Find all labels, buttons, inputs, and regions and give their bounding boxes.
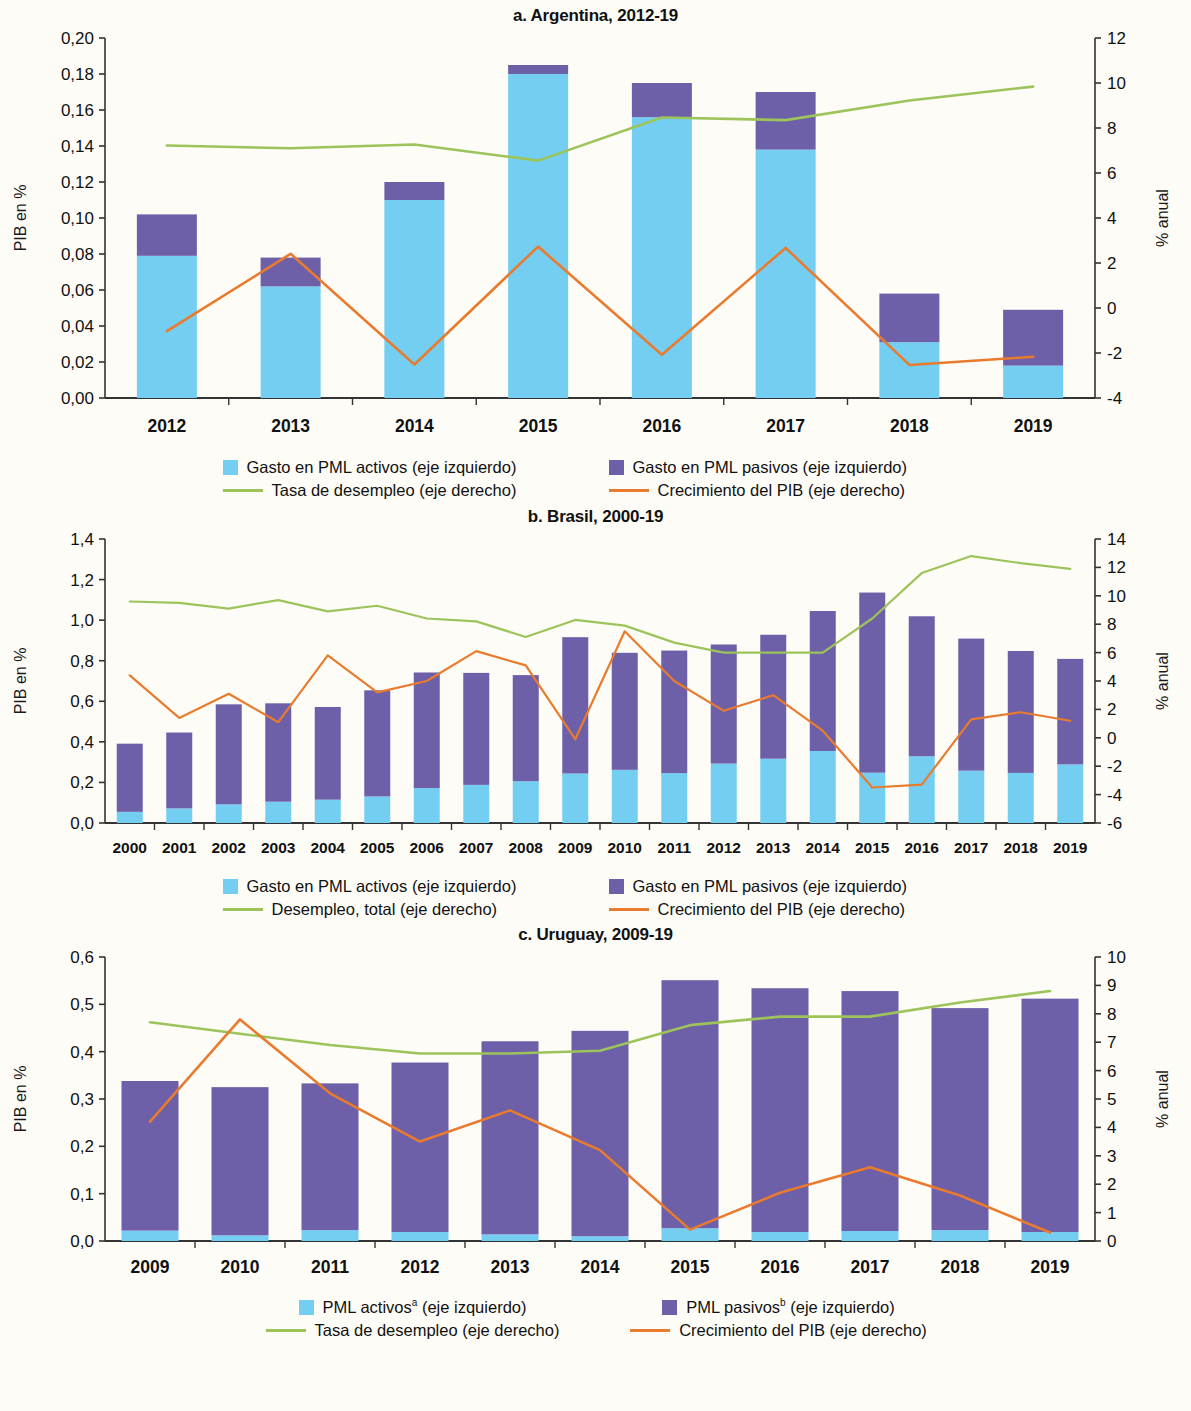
chart-svg-brasil: 0,00,20,40,60,81,01,21,4-6-4-20246810121…: [0, 527, 1191, 875]
legend-row-2: Tasa de desempleo (eje derecho) Crecimie…: [0, 479, 1191, 502]
bar-segment-pml-pasivos: [212, 1087, 269, 1235]
bar-segment-pml-activos: [661, 773, 687, 823]
bar-segment-pml-activos: [414, 788, 440, 823]
line-swatch-desempleo-icon: [266, 1329, 306, 1332]
y-axis-label-right: % anual: [1154, 189, 1171, 247]
line-swatch-crecimiento-icon: [609, 908, 649, 911]
bar-segment-pml-pasivos: [216, 704, 242, 804]
legend-item-pml-activos[interactable]: Gasto en PML activos (eje izquierdo): [223, 459, 583, 476]
bar-segment-pml-pasivos: [842, 991, 899, 1231]
bar-segment-pml-activos: [302, 1230, 359, 1241]
legend-item-pml-activos[interactable]: PML activosa (eje izquierdo): [243, 1298, 583, 1316]
y-axis-tick-right: 12: [1107, 558, 1126, 577]
y-axis-tick-left: 0,2: [70, 1138, 94, 1157]
line-series-desempleo: [167, 87, 1033, 161]
y-axis-label-left: PIB en %: [12, 1066, 29, 1133]
x-axis-tick-label: 2017: [766, 416, 805, 436]
y-axis-tick-left: 1,0: [70, 611, 94, 630]
legend-uruguay: PML activosa (eje izquierdo) PML pasivos…: [0, 1295, 1191, 1342]
legend-label-desempleo: Desempleo, total (eje derecho): [272, 901, 498, 918]
legend-row-2: Desempleo, total (eje derecho) Crecimien…: [0, 898, 1191, 921]
y-axis-tick-right: 8: [1107, 615, 1116, 634]
legend-item-crecimiento[interactable]: Crecimiento del PIB (eje derecho): [609, 1322, 949, 1339]
y-axis-tick-right: 2: [1107, 1175, 1116, 1194]
swatch-pml-activos-icon: [223, 879, 238, 894]
y-axis-tick-right: -2: [1107, 757, 1122, 776]
bar-segment-pml-pasivos: [661, 650, 687, 773]
y-axis-tick-right: 7: [1107, 1033, 1116, 1052]
bar-segment-pml-activos: [612, 769, 638, 822]
legend-item-desempleo[interactable]: Tasa de desempleo (eje derecho): [243, 1322, 583, 1339]
x-axis-tick-label: 2012: [707, 839, 741, 856]
panel-argentina: a. Argentina, 2012-19 0,000,020,040,060,…: [0, 0, 1191, 503]
plot-argentina: 0,000,020,040,060,080,100,120,140,160,18…: [0, 26, 1191, 456]
legend-label-pml-activos-suffix: (eje izquierdo): [417, 1298, 526, 1316]
bar-segment-pml-activos: [315, 799, 341, 822]
x-axis-tick-label: 2015: [519, 416, 558, 436]
y-axis-label-right: % anual: [1154, 1070, 1171, 1128]
bar-segment-pml-pasivos: [117, 743, 143, 811]
bar-segment-pml-activos: [932, 1230, 989, 1241]
bar-segment-pml-activos: [508, 74, 568, 398]
panel-uruguay: c. Uruguay, 2009-19 0,00,10,20,30,40,50,…: [0, 921, 1191, 1342]
y-axis-tick-right: -4: [1107, 785, 1122, 804]
y-axis-tick-right: 10: [1107, 948, 1126, 967]
bar-segment-pml-activos: [859, 772, 885, 822]
y-axis-tick-left: 0,06: [61, 281, 94, 300]
bar-segment-pml-pasivos: [122, 1081, 179, 1231]
y-axis-tick-left: 0,20: [61, 29, 94, 48]
y-axis-tick-right: 6: [1107, 1062, 1116, 1081]
bar-segment-pml-pasivos: [166, 732, 192, 808]
legend-item-pml-pasivos[interactable]: Gasto en PML pasivos (eje izquierdo): [609, 878, 969, 895]
bar-segment-pml-pasivos: [315, 707, 341, 800]
y-axis-tick-right: -4: [1107, 389, 1122, 408]
bar-segment-pml-pasivos: [752, 988, 809, 1232]
bar-segment-pml-activos: [562, 773, 588, 822]
bar-segment-pml-pasivos: [364, 690, 390, 796]
line-swatch-desempleo-icon: [223, 489, 263, 492]
x-axis-tick-label: 2012: [147, 416, 186, 436]
y-axis-tick-right: 8: [1107, 1005, 1116, 1024]
legend-brasil: Gasto en PML activos (eje izquierdo) Gas…: [0, 875, 1191, 922]
y-axis-tick-left: 0,8: [70, 651, 94, 670]
x-axis-tick-label: 2013: [756, 839, 791, 856]
legend-item-desempleo[interactable]: Tasa de desempleo (eje derecho): [223, 482, 583, 499]
legend-item-crecimiento[interactable]: Crecimiento del PIB (eje derecho): [609, 482, 969, 499]
legend-item-pml-activos[interactable]: Gasto en PML activos (eje izquierdo): [223, 878, 583, 895]
bar-segment-pml-activos: [117, 811, 143, 822]
y-axis-tick-left: 0,04: [61, 317, 94, 336]
bar-segment-pml-activos: [752, 1232, 809, 1241]
swatch-pml-activos-icon: [299, 1300, 314, 1315]
y-axis-tick-right: 14: [1107, 530, 1126, 549]
y-axis-tick-left: 0,0: [70, 1232, 94, 1251]
x-axis-tick-label: 2019: [1031, 1257, 1070, 1277]
y-axis-tick-right: 8: [1107, 119, 1116, 138]
y-axis-tick-right: 4: [1107, 1119, 1116, 1138]
bar-segment-pml-activos: [392, 1232, 449, 1241]
x-axis-tick-label: 2011: [657, 839, 691, 856]
legend-item-crecimiento[interactable]: Crecimiento del PIB (eje derecho): [609, 901, 969, 918]
swatch-pml-pasivos-icon: [662, 1300, 677, 1315]
line-swatch-crecimiento-icon: [630, 1329, 670, 1332]
bar-segment-pml-activos: [1008, 773, 1034, 823]
legend-row-1: Gasto en PML activos (eje izquierdo) Gas…: [0, 875, 1191, 898]
x-axis-tick-label: 2016: [642, 416, 681, 436]
bar-segment-pml-activos: [513, 781, 539, 823]
x-axis-tick-label: 2001: [162, 839, 197, 856]
bar-segment-pml-pasivos: [513, 675, 539, 781]
bar-segment-pml-activos: [364, 796, 390, 823]
x-axis-tick-label: 2010: [221, 1257, 260, 1277]
y-axis-tick-right: 0: [1107, 728, 1116, 747]
y-axis-tick-right: 4: [1107, 209, 1116, 228]
bar-segment-pml-pasivos: [879, 294, 939, 343]
legend-item-desempleo[interactable]: Desempleo, total (eje derecho): [223, 901, 583, 918]
legend-item-pml-pasivos[interactable]: PML pasivosb (eje izquierdo): [609, 1298, 949, 1316]
bar-segment-pml-activos: [810, 751, 836, 823]
legend-item-pml-pasivos[interactable]: Gasto en PML pasivos (eje izquierdo): [609, 459, 969, 476]
chart-title-brasil: b. Brasil, 2000-19: [0, 503, 1191, 527]
bar-segment-pml-activos: [122, 1231, 179, 1241]
x-axis-tick-label: 2013: [271, 416, 310, 436]
x-axis-tick-label: 2017: [954, 839, 988, 856]
legend-label-crecimiento: Crecimiento del PIB (eje derecho): [679, 1322, 927, 1339]
x-axis-tick-label: 2009: [131, 1257, 170, 1277]
